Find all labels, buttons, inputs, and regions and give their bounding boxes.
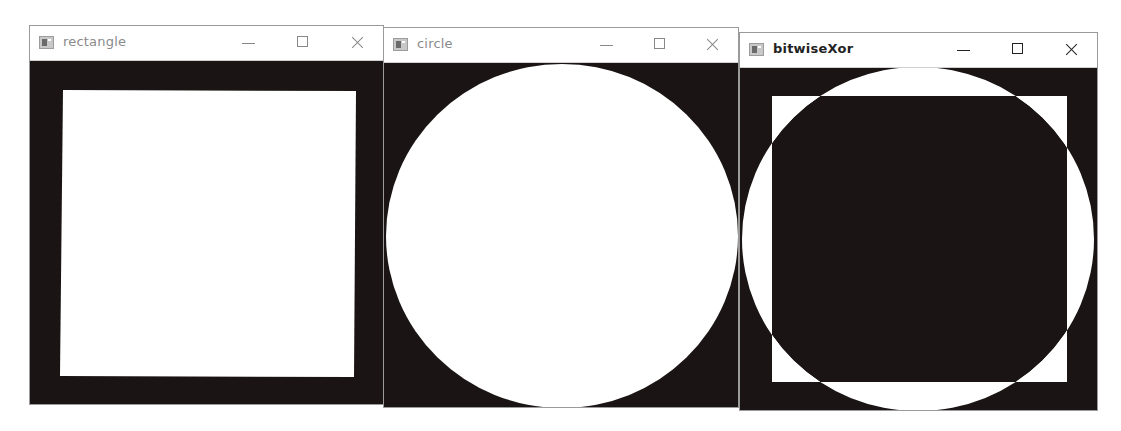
rectangle-image bbox=[30, 61, 383, 404]
title-bar[interactable]: rectangle bbox=[30, 26, 383, 61]
maximize-button[interactable] bbox=[637, 28, 683, 62]
app-icon bbox=[393, 38, 408, 51]
close-button[interactable] bbox=[689, 28, 735, 62]
image-canvas bbox=[384, 63, 738, 407]
window-title: rectangle bbox=[63, 34, 126, 49]
circle-image bbox=[384, 63, 738, 407]
window-bitwisexor: bitwiseXor bbox=[739, 32, 1098, 411]
bitwisexor-image bbox=[740, 68, 1097, 410]
maximize-button[interactable] bbox=[280, 26, 326, 60]
title-bar[interactable]: circle bbox=[384, 28, 738, 63]
window-title: bitwiseXor bbox=[773, 41, 853, 56]
minimize-button[interactable] bbox=[940, 33, 986, 67]
window-rectangle: rectangle bbox=[29, 25, 384, 405]
close-button[interactable] bbox=[334, 26, 380, 60]
maximize-button[interactable] bbox=[995, 33, 1041, 67]
minimize-button[interactable] bbox=[583, 28, 629, 62]
close-button[interactable] bbox=[1048, 33, 1094, 67]
app-icon bbox=[39, 36, 54, 49]
image-canvas bbox=[30, 61, 383, 404]
title-bar[interactable]: bitwiseXor bbox=[740, 33, 1097, 68]
window-circle: circle bbox=[383, 27, 739, 408]
image-canvas bbox=[740, 68, 1097, 410]
minimize-button[interactable] bbox=[225, 26, 271, 60]
window-title: circle bbox=[417, 36, 453, 51]
app-icon bbox=[749, 43, 764, 56]
